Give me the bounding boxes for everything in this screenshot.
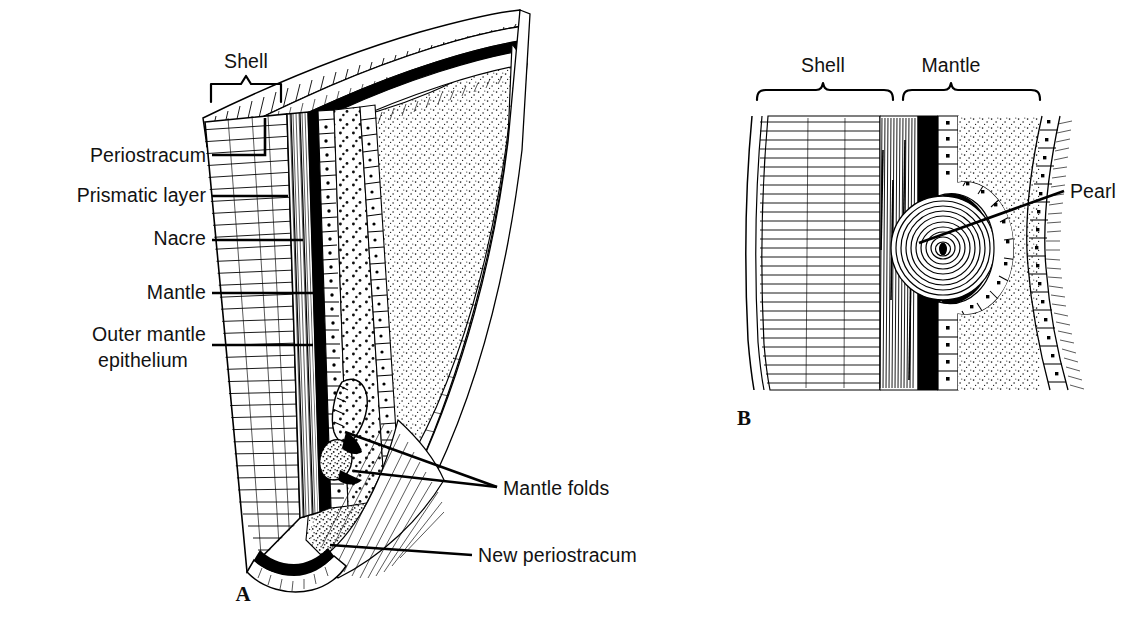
figure-root: Shell Periostracum Prismatic layer Nacre… [0, 0, 1133, 631]
label-mantle-folds: Mantle folds [503, 477, 609, 499]
pearl-body-b [891, 196, 995, 300]
anatomical-diagram: Shell Periostracum Prismatic layer Nacre… [0, 0, 1133, 631]
pearl-nucleus-b [939, 243, 947, 256]
label-outer-mantle-epithelium-line1: Outer mantle [92, 323, 206, 345]
prismatic-layer-b [762, 116, 880, 390]
label-new-periostracum: New periostracum [478, 544, 637, 566]
label-pearl: Pearl [1070, 180, 1116, 202]
label-periostracum: Periostracum [90, 144, 206, 166]
brace-label-shell-b: Shell [801, 54, 845, 76]
label-outer-mantle-epithelium-line2: epithelium [98, 349, 188, 371]
label-prismatic-layer: Prismatic layer [77, 184, 207, 206]
label-nacre: Nacre [153, 227, 206, 249]
label-mantle: Mantle [147, 281, 206, 303]
bracket-label-shell-a: Shell [224, 50, 268, 72]
panel-letter-a: A [235, 582, 251, 606]
panel-letter-b: B [737, 406, 751, 430]
brace-label-mantle-b: Mantle [921, 54, 980, 76]
